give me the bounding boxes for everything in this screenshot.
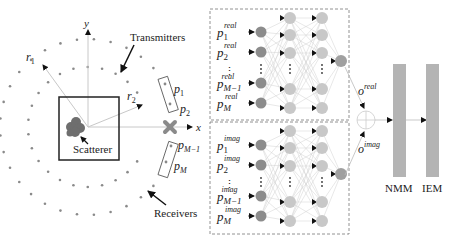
- hidden-neuron: [284, 196, 296, 208]
- hidden-neuron: [316, 83, 328, 95]
- iem-label: IEM: [422, 182, 442, 194]
- scatterer-shape: [66, 117, 85, 137]
- input-neuron: [256, 47, 267, 58]
- antenna-dot: [59, 73, 62, 76]
- y-axis-label: y: [83, 17, 89, 29]
- hidden-neuron: [316, 160, 328, 172]
- antenna-dot: [114, 72, 117, 75]
- nmm-label: NMM: [385, 182, 413, 194]
- hidden-neuron: [316, 215, 328, 227]
- antenna-dot: [47, 171, 50, 174]
- antenna-dot: [0, 134, 2, 137]
- probe-label-1: p1: [173, 82, 184, 98]
- imag-network-graph: [248, 125, 347, 227]
- antenna-dot: [109, 41, 112, 44]
- antenna-dot: [136, 160, 139, 163]
- probe-label-m: pM: [173, 159, 188, 175]
- hidden-neuron: [316, 125, 328, 137]
- input-neuron: [256, 78, 267, 89]
- antenna-dot: [30, 193, 33, 196]
- antenna-dot: [140, 196, 143, 199]
- antenna-dot: [126, 81, 129, 84]
- input-neuron: [256, 27, 267, 38]
- antenna-dot: [9, 85, 12, 88]
- antenna-dot: [2, 151, 5, 154]
- real-network-panel: p1real p2real pM−1real pMreal ⋮: [210, 9, 349, 120]
- scatterer-label: Scatterer: [73, 143, 112, 155]
- input-neuron: [256, 140, 267, 151]
- r1-label: r1: [26, 50, 35, 66]
- antenna-dot: [44, 49, 47, 52]
- antenna-dot: [27, 118, 30, 121]
- antenna-dot: [44, 202, 47, 205]
- antenna-dot: [76, 38, 79, 41]
- antenna-dot: [126, 171, 129, 174]
- hidden-neuron: [316, 12, 328, 24]
- input-neuron: [256, 211, 267, 222]
- antenna-dot: [72, 184, 75, 187]
- antenna-dot: [93, 38, 96, 41]
- hidden-neuron: [316, 29, 328, 41]
- real-network-graph: [248, 12, 347, 114]
- antenna-dot: [31, 147, 34, 150]
- antenna-dot: [59, 179, 62, 182]
- measurement-scene: y x r1 r2 Scatterer Transmitters Receive…: [0, 17, 201, 219]
- imag-input-labels: p1imag p2imag pM−1imag pMimag ⋮: [216, 134, 242, 226]
- svg-text:p2imag: p2imag: [216, 154, 240, 175]
- antenna-dot: [47, 81, 50, 84]
- antenna-dot: [152, 67, 155, 70]
- real-input-labels: p1real p2real pM−1real pMreal ⋮: [216, 21, 242, 113]
- hidden-neuron: [284, 29, 296, 41]
- hidden-neuron: [316, 102, 328, 114]
- nmm-block: [393, 64, 406, 177]
- antenna-dot: [136, 91, 139, 94]
- svg-text:⋮: ⋮: [224, 178, 235, 190]
- probe-label-m-1: pM−1: [177, 138, 200, 154]
- r2-vector: [88, 105, 142, 127]
- antenna-dot: [114, 179, 117, 182]
- antenna-dot: [31, 104, 34, 107]
- hidden-neuron: [284, 125, 296, 137]
- input-neuron: [256, 98, 267, 109]
- hidden-neuron: [316, 47, 328, 59]
- antenna-dot: [109, 211, 112, 214]
- diagram-canvas: y x r1 r2 Scatterer Transmitters Receive…: [0, 0, 451, 249]
- transmitters-label: Transmitters: [130, 31, 185, 43]
- real-output-label: oreal: [358, 82, 377, 98]
- combiner-stage: oreal oimag NMM IEM: [345, 64, 442, 194]
- svg-text:p1real: p1real: [216, 21, 237, 42]
- antenna-dot: [101, 184, 104, 187]
- transmitters-arrow: [121, 45, 134, 72]
- antenna-dot: [0, 117, 2, 120]
- imag-network-panel: p1imag p2imag pM−1imag pMimag ⋮: [210, 122, 349, 234]
- antenna-dot: [27, 133, 30, 136]
- svg-text:pMreal: pMreal: [216, 92, 238, 113]
- r1-vector: [43, 65, 88, 127]
- antenna-dot: [18, 71, 21, 74]
- antenna-dot: [93, 214, 96, 217]
- r2-label: r2: [127, 89, 136, 105]
- hidden-neuron: [284, 12, 296, 24]
- input-neuron: [256, 191, 267, 202]
- hidden-neuron: [284, 47, 296, 59]
- antenna-dot: [125, 205, 128, 208]
- antenna-dot: [86, 186, 89, 189]
- svg-text:p1imag: p1imag: [216, 134, 240, 155]
- hidden-neuron: [284, 215, 296, 227]
- hidden-neuron: [284, 102, 296, 114]
- input-neuron: [256, 160, 267, 171]
- antenna-dot: [59, 209, 62, 212]
- probe-label-2: p2: [179, 102, 190, 118]
- svg-text:p2real: p2real: [216, 41, 237, 62]
- antenna-dot: [152, 185, 155, 188]
- antenna-dot: [101, 67, 104, 70]
- iem-block: [426, 64, 439, 177]
- receivers-arrow: [148, 191, 166, 205]
- svg-text:⋮: ⋮: [224, 65, 235, 77]
- antenna-dot: [140, 55, 143, 58]
- antenna-dot: [18, 181, 21, 184]
- hidden-neuron: [284, 160, 296, 172]
- antenna-dot: [9, 166, 12, 169]
- antenna-dot: [59, 42, 62, 45]
- hidden-neuron: [316, 142, 328, 154]
